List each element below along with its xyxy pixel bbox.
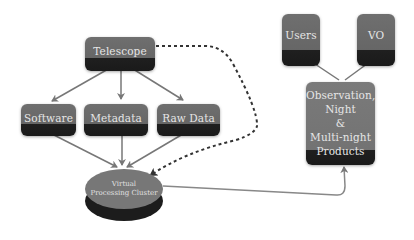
- node-telescope-label: Telescope: [85, 45, 155, 57]
- cluster-label-line1: Virtual: [85, 180, 163, 189]
- products-label-line4: Multi-night: [306, 130, 375, 144]
- node-raw-data: Raw Data: [157, 104, 220, 136]
- arrow-rawdata-cluster: [127, 131, 188, 167]
- node-users: Users: [282, 14, 320, 66]
- arrow-software-cluster: [48, 132, 117, 167]
- node-telescope: Telescope: [85, 37, 155, 71]
- node-users-label: Users: [282, 29, 320, 41]
- arrow-cluster-products: [163, 167, 345, 195]
- node-virtual-processing-cluster: Virtual Processing Cluster: [85, 169, 163, 221]
- products-label-line2: Night: [306, 102, 375, 116]
- cluster-top: Virtual Processing Cluster: [85, 169, 163, 209]
- node-metadata: Metadata: [84, 104, 148, 136]
- products-label-line5: Products: [306, 144, 375, 158]
- products-label-line3: &: [306, 116, 375, 130]
- node-software-label: Software: [21, 112, 76, 124]
- node-software: Software: [21, 104, 76, 136]
- node-vo: VO: [357, 14, 395, 66]
- products-label-line1: Observation,: [306, 88, 375, 102]
- node-raw-data-label: Raw Data: [157, 112, 220, 124]
- cluster-label-line2: Processing Cluster: [85, 189, 163, 198]
- node-metadata-label: Metadata: [84, 112, 148, 124]
- node-products: Observation, Night & Multi-night Product…: [306, 82, 375, 165]
- node-vo-label: VO: [357, 29, 395, 41]
